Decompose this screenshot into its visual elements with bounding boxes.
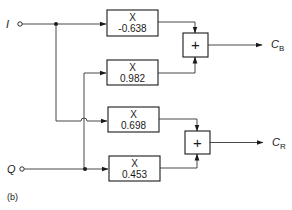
input-i: I <box>6 18 22 30</box>
multiplier-coefficient: 0.982 <box>120 73 145 84</box>
figure-caption: (b) <box>7 192 18 202</box>
multiplier-m1: X -0.638 <box>107 10 158 36</box>
multiplier-coefficient: -0.638 <box>118 23 147 34</box>
adder-b: + <box>183 33 208 57</box>
color-difference-matrix-diagram: I Q X -0.638 X 0.982 X 0.698 <box>0 0 292 210</box>
plus-icon: + <box>193 134 202 151</box>
multiplier-coefficient: 0.698 <box>121 120 146 131</box>
q-signal-wires <box>24 73 108 171</box>
adder-r: + <box>185 131 210 154</box>
multiplier-coefficient: 0.453 <box>122 169 147 180</box>
plus-icon: + <box>191 36 200 53</box>
multiplier-op: X <box>129 12 136 23</box>
i-signal-wires <box>22 22 107 121</box>
multiplier-op: X <box>130 109 137 120</box>
input-i-label: I <box>6 18 9 30</box>
multiplier-op: X <box>129 62 136 73</box>
multiplier-m2: X 0.982 <box>107 60 158 85</box>
output-cr-label: CR <box>272 136 286 151</box>
input-q-terminal-icon <box>20 167 24 171</box>
input-q: Q <box>7 163 24 175</box>
multiplier-m4: X 0.453 <box>109 156 160 181</box>
multiplier-m3: X 0.698 <box>108 107 159 132</box>
output-cb-label: CB <box>271 38 284 53</box>
multiplier-op: X <box>131 158 138 169</box>
input-i-terminal-icon <box>18 22 22 26</box>
input-q-label: Q <box>7 163 16 175</box>
